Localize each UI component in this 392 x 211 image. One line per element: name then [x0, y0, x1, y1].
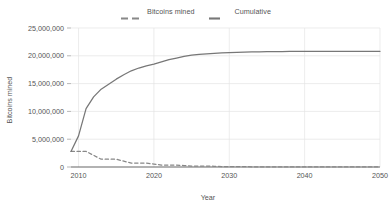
y-tick-label: 5,000,000: [32, 135, 64, 144]
chart-svg: 05,000,00010,000,00015,000,00020,000,000…: [0, 0, 392, 211]
series-line-bitcoins-mined: [71, 151, 380, 167]
y-tick-labels: 05,000,00010,000,00015,000,00020,000,000…: [28, 24, 64, 172]
series-lines: [71, 51, 380, 167]
x-axis-title: Year: [201, 193, 216, 202]
y-tick-label: 20,000,000: [28, 51, 64, 60]
x-tick-label: 2040: [297, 171, 313, 180]
x-tick-label: 2050: [372, 171, 388, 180]
y-axis-title: Bitcoins mined: [5, 77, 14, 124]
x-tick-labels: 20102020203020402050: [71, 171, 388, 180]
y-tick-label: 15,000,000: [28, 79, 64, 88]
chart-container: Bitcoins mined Cumulative 05,000,00010,0…: [0, 0, 392, 211]
gridlines: [67, 28, 380, 167]
plot-area: 05,000,00010,000,00015,000,00020,000,000…: [0, 0, 392, 211]
y-tick-label: 10,000,000: [28, 107, 64, 116]
x-tick-label: 2020: [146, 171, 162, 180]
y-tick-label: 25,000,000: [28, 24, 64, 33]
x-tick-label: 2030: [221, 171, 237, 180]
y-tick-label: 0: [60, 163, 64, 172]
x-tick-label: 2010: [71, 171, 87, 180]
series-line-cumulative: [71, 51, 380, 151]
